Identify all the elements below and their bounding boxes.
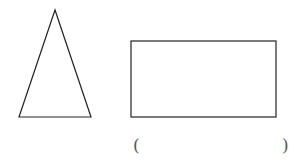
- open-parenthesis: (: [133, 137, 140, 154]
- answer-blank[interactable]: [145, 137, 278, 157]
- triangle-shape: [19, 10, 91, 117]
- rectangle-shape: [131, 41, 276, 117]
- close-parenthesis: ): [282, 137, 289, 154]
